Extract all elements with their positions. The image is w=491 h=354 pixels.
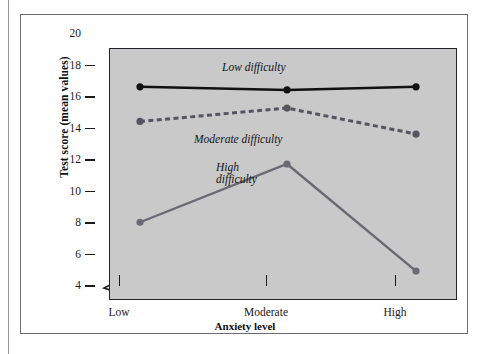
y-tick-label: 20 [51, 28, 81, 40]
y-tick-label: 8 [51, 217, 81, 229]
data-point-marker [283, 160, 290, 167]
y-tick-mark [85, 222, 95, 224]
x-tick-mark [395, 275, 397, 286]
data-point-marker [412, 83, 419, 90]
plot-lines-svg [110, 49, 458, 301]
y-tick-mark [85, 128, 95, 130]
y-tick-mark [85, 254, 95, 256]
y-tick-label: 6 [51, 249, 81, 261]
data-point-marker [412, 267, 419, 274]
figure-frame: Test score (mean values) 201816141210864… [20, 14, 468, 334]
data-point-marker [412, 130, 419, 137]
y-tick-mark [85, 285, 95, 287]
y-axis-title: Test score (mean values) [58, 32, 70, 202]
page-gutter-rule [8, 0, 9, 354]
y-tick-label: 16 [51, 91, 81, 103]
series-label-high-difficulty: High difficulty [216, 161, 257, 185]
y-tick-label: 10 [51, 186, 81, 198]
series-line [140, 164, 416, 271]
data-point-marker [283, 104, 290, 111]
y-tick-label: 18 [51, 60, 81, 72]
x-tick-label: Moderate [226, 306, 306, 318]
data-point-marker [136, 83, 143, 90]
series-label-moderate-difficulty: Moderate difficulty [194, 133, 282, 145]
y-tick-mark [85, 96, 95, 98]
x-axis-title: Anxiety level [21, 320, 469, 332]
y-tick-label: 14 [51, 123, 81, 135]
series-line [140, 87, 416, 90]
series-label-low-difficulty: Low difficulty [222, 61, 286, 73]
data-point-marker [136, 219, 143, 226]
x-tick-mark [119, 275, 121, 286]
y-tick-mark [85, 65, 95, 67]
x-tick-mark [266, 275, 268, 286]
y-tick-mark [85, 159, 95, 161]
data-point-marker [283, 86, 290, 93]
data-point-marker [136, 118, 143, 125]
x-tick-label: Low [79, 306, 159, 318]
y-tick-mark [85, 191, 95, 193]
plot-area: Low difficulty Moderate difficulty High … [109, 48, 457, 300]
y-tick-label: 12 [51, 154, 81, 166]
series-line [140, 108, 416, 134]
y-tick-label: 4 [51, 280, 81, 292]
x-tick-label: High [355, 306, 435, 318]
